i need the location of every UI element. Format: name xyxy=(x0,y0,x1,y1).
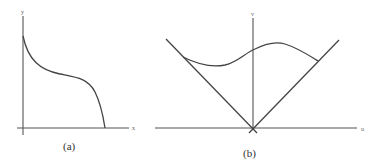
panel-a-y-label: y xyxy=(21,9,24,15)
figure-canvas: y x (a) v u (b) xyxy=(0,0,378,161)
panel-a-caption: (a) xyxy=(63,140,76,153)
panel-b-curve xyxy=(183,43,318,66)
panel-a: y x (a) xyxy=(17,9,135,153)
panel-b-v-label: v xyxy=(251,11,254,17)
panel-b-u-label: u xyxy=(361,126,364,132)
panel-a-curve xyxy=(23,36,105,128)
panel-b-right-line xyxy=(249,40,339,133)
panel-b: v u (b) xyxy=(155,11,364,160)
panel-b-caption: (b) xyxy=(243,147,256,160)
panel-a-x-label: x xyxy=(132,125,135,131)
panel-b-left-line xyxy=(166,39,257,133)
